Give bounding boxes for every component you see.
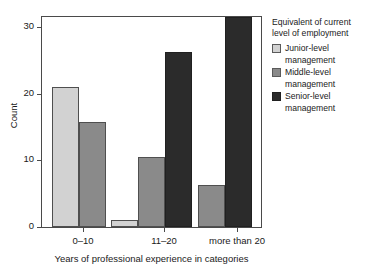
legend-swatch-senior-icon (272, 92, 281, 101)
legend-label-middle: Middle-level management (285, 67, 335, 90)
y-axis-title: Count (8, 86, 19, 146)
bars-layer (42, 17, 261, 227)
legend-item-middle: Middle-level management (272, 67, 367, 90)
legend-title-line1: Equivalent of current (272, 17, 351, 27)
legend-label-junior-line1: Junior-level (285, 43, 329, 53)
bar-middle-group-1 (138, 157, 165, 227)
legend-label-senior: Senior-level management (285, 91, 335, 114)
legend-label-junior-line2: management (285, 55, 335, 67)
y-tick-label: 0 (29, 221, 34, 231)
x-tick-mark (164, 228, 165, 232)
bar-senior-group-1 (165, 52, 192, 227)
legend-title-line2: level of employment (272, 28, 348, 38)
y-tick-label: 10 (23, 154, 34, 164)
x-tick-label: more than 20 (209, 235, 265, 246)
y-axis: 0 10 20 30 (0, 0, 41, 277)
bar-chart-figure: 0 10 20 30 Count 0–10 11–20 more t (0, 0, 367, 277)
legend-label-senior-line1: Senior-level (285, 91, 330, 101)
bar-middle-group-0 (79, 122, 106, 227)
bar-junior-group-1 (111, 220, 138, 227)
y-tick-label: 20 (23, 88, 34, 98)
x-tick-label: 11–20 (151, 235, 177, 246)
legend-item-senior: Senior-level management (272, 91, 367, 114)
x-tick-label: 0–10 (72, 235, 93, 246)
bar-middle-group-2 (198, 185, 225, 227)
legend-swatch-junior-icon (272, 44, 281, 53)
legend-swatch-middle-icon (272, 68, 281, 77)
legend-label-middle-line2: management (285, 79, 335, 91)
legend-item-junior: Junior-level management (272, 43, 367, 66)
legend-label-middle-line1: Middle-level (285, 67, 331, 77)
x-tick-mark (83, 228, 84, 232)
x-axis-title: Years of professional experience in cate… (41, 253, 262, 264)
y-tick-label: 30 (23, 21, 34, 31)
plot-area (41, 16, 262, 228)
bar-junior-group-0 (52, 87, 79, 227)
legend-title: Equivalent of current level of employmen… (272, 17, 367, 39)
legend: Equivalent of current level of employmen… (272, 17, 367, 115)
legend-label-senior-line2: management (285, 103, 335, 115)
x-tick-mark (237, 228, 238, 232)
legend-label-junior: Junior-level management (285, 43, 335, 66)
bar-senior-group-2 (225, 17, 252, 227)
